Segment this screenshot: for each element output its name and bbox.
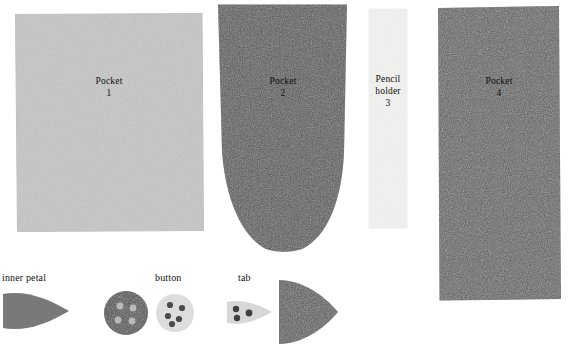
- button-hole: [179, 305, 185, 311]
- button-hole: [117, 303, 124, 310]
- button-dark-shape: [103, 290, 149, 336]
- pencil-holder-3-shape: [368, 8, 408, 229]
- outer-petal-shape: [277, 278, 340, 346]
- inner-petal-shape: [3, 291, 71, 331]
- button-hole: [129, 318, 136, 325]
- caption-inner-petal: inner petal: [2, 272, 46, 283]
- button-hole: [176, 316, 182, 322]
- tab-hole: [234, 315, 240, 321]
- caption-button: button: [155, 272, 181, 283]
- pattern-piece-pocket-2: [216, 3, 349, 253]
- caption-tab: tab: [238, 272, 251, 283]
- tab-hole: [233, 306, 239, 312]
- pattern-piece-inner-petal: [3, 291, 71, 331]
- pocket-4-shape: [436, 5, 562, 302]
- pocket-2-shape: [216, 3, 349, 253]
- pattern-piece-outer-petal: [277, 278, 340, 346]
- pocket-1-shape: [14, 12, 205, 233]
- button-hole: [167, 302, 173, 308]
- button-hole: [130, 305, 137, 312]
- button-hole: [165, 313, 171, 319]
- pattern-piece-tab: [226, 299, 274, 326]
- button-hole: [169, 321, 175, 327]
- pattern-piece-button-dark: [103, 290, 149, 336]
- pattern-piece-button-light: [155, 293, 195, 333]
- pattern-piece-pencil-holder-3: [368, 8, 408, 229]
- tab-hole: [246, 310, 253, 317]
- pattern-piece-pocket-4: [436, 5, 562, 302]
- pattern-piece-pocket-1: [14, 12, 205, 233]
- button-hole: [115, 317, 122, 324]
- tab-shape: [226, 299, 274, 326]
- button-light-shape: [155, 293, 195, 333]
